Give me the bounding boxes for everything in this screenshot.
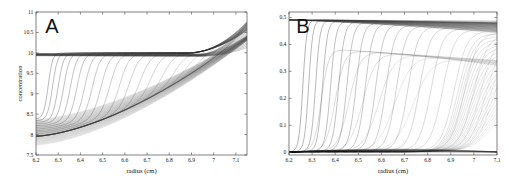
data-curve — [36, 36, 247, 123]
x-tick-label: 6.8 — [424, 157, 431, 163]
data-curve — [36, 24, 247, 54]
x-tick-label: 6.9 — [188, 157, 195, 163]
x-tick-label: 6.9 — [447, 157, 454, 163]
x-tick-label: 7.1 — [494, 157, 501, 163]
y-tick-label: 8 — [31, 132, 34, 138]
y-tick-label: 0.4 — [279, 41, 286, 47]
data-curve — [36, 23, 247, 54]
curve-family — [36, 22, 247, 145]
panel-label-b: B — [296, 15, 309, 37]
x-tick-label: 6.4 — [332, 157, 339, 163]
data-curve — [289, 38, 497, 151]
y-tick-label: 7.5 — [26, 152, 33, 158]
x-tick-label: 6.3 — [55, 157, 62, 163]
data-curve — [289, 53, 497, 152]
y-tick-label: 0.2 — [279, 95, 286, 101]
curve-family — [289, 20, 497, 152]
data-curve — [289, 34, 497, 152]
y-tick-label: 9.5 — [26, 70, 33, 76]
y-tick-label: 0.1 — [279, 122, 286, 128]
data-curve — [36, 25, 247, 137]
data-curve — [36, 25, 247, 136]
data-curve — [36, 29, 247, 124]
x-axis-title: radius (cm) — [126, 167, 156, 175]
x-tick-label: 6.6 — [378, 157, 385, 163]
x-tick-label: 6.4 — [77, 157, 84, 163]
figure-container: 6.26.36.46.56.66.76.86.977.17.588.599.51… — [0, 0, 510, 188]
y-tick-label: 0 — [284, 149, 287, 155]
data-curve — [289, 37, 497, 152]
panel-a: 6.26.36.46.56.66.76.86.977.17.588.599.51… — [0, 0, 255, 188]
data-curve — [289, 21, 497, 151]
x-tick-label: 6.6 — [121, 157, 128, 163]
x-tick-label: 6.5 — [355, 157, 362, 163]
panel-label-a: A — [45, 15, 59, 37]
y-tick-label: 0.5 — [279, 14, 286, 20]
data-curve — [289, 43, 497, 152]
x-tick-label: 6.2 — [286, 157, 293, 163]
x-tick-label: 7 — [212, 157, 215, 163]
x-tick-label: 7.1 — [232, 157, 239, 163]
y-tick-label: 10.5 — [24, 29, 34, 35]
data-curve — [289, 34, 497, 152]
y-tick-label: 11 — [28, 9, 34, 15]
x-tick-label: 6.3 — [309, 157, 316, 163]
y-tick-label: 8.5 — [26, 111, 33, 117]
x-tick-label: 7 — [472, 157, 475, 163]
data-curve — [36, 30, 247, 121]
y-tick-label: 0.3 — [279, 68, 286, 74]
data-curve — [289, 58, 497, 151]
data-curve — [36, 37, 247, 125]
data-curve — [289, 60, 497, 151]
data-curve — [36, 37, 247, 124]
y-axis-title: concentration — [16, 65, 23, 102]
y-tick-label: 10 — [28, 50, 34, 56]
data-curve — [289, 22, 497, 152]
x-tick-label: 6.8 — [166, 157, 173, 163]
data-curve — [289, 99, 497, 152]
x-tick-label: 6.5 — [99, 157, 106, 163]
x-tick-label: 6.2 — [33, 157, 40, 163]
data-curve — [36, 26, 247, 132]
x-tick-label: 6.7 — [144, 157, 151, 163]
x-tick-label: 6.7 — [401, 157, 408, 163]
panel-b: 6.26.36.46.56.66.76.86.977.100.10.20.30.… — [255, 0, 510, 188]
data-curve — [289, 61, 497, 152]
data-curve — [289, 32, 497, 152]
data-curve — [289, 53, 497, 152]
data-curve — [36, 28, 247, 125]
data-curve — [289, 61, 497, 152]
x-axis-title: radius (cm) — [378, 167, 408, 175]
y-tick-label: 9 — [31, 91, 34, 97]
